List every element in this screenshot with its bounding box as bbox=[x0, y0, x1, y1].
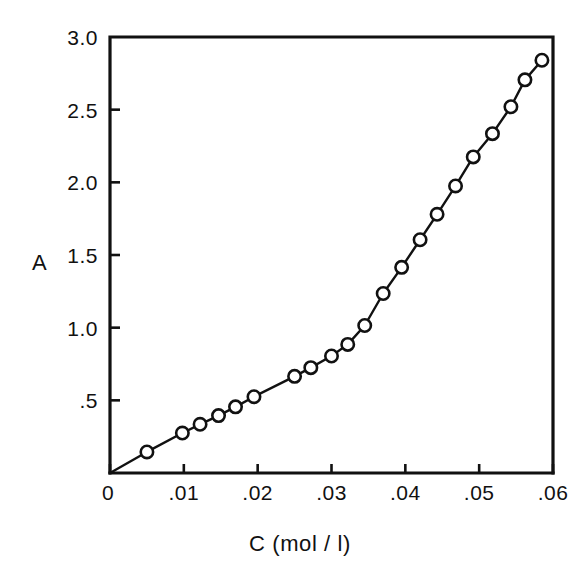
x-tick-label: 0 bbox=[102, 481, 114, 504]
data-point bbox=[505, 101, 517, 113]
x-tick-label: .03 bbox=[316, 481, 347, 504]
data-point bbox=[431, 208, 443, 220]
x-tick-label: .02 bbox=[242, 481, 273, 504]
data-point bbox=[305, 361, 317, 373]
data-curve bbox=[110, 60, 542, 473]
data-point bbox=[449, 180, 461, 192]
data-point bbox=[377, 287, 389, 299]
data-point-markers bbox=[141, 54, 548, 458]
x-axis-title: C (mol / l) bbox=[249, 531, 351, 556]
y-tick-label: 3.0 bbox=[67, 26, 98, 49]
y-tick-label: .5 bbox=[79, 389, 98, 412]
line-chart: 0.01.02.03.04.05.06 0.51.01.52.02.53.0 C… bbox=[0, 0, 580, 572]
data-point bbox=[229, 401, 241, 413]
data-point bbox=[414, 234, 426, 246]
data-point bbox=[141, 446, 153, 458]
y-tick-label: 1.5 bbox=[67, 244, 98, 267]
x-tick-label: .04 bbox=[390, 481, 421, 504]
data-point bbox=[194, 418, 206, 430]
data-point bbox=[467, 151, 479, 163]
figure-container: 0.01.02.03.04.05.06 0.51.01.52.02.53.0 C… bbox=[0, 0, 580, 572]
y-axis-tick-labels: 0.51.01.52.02.53.0 bbox=[67, 26, 98, 485]
data-point bbox=[519, 74, 531, 86]
data-point bbox=[288, 370, 300, 382]
x-tick-label: .05 bbox=[464, 481, 495, 504]
x-axis-tick-labels: 0.01.02.03.04.05.06 bbox=[102, 481, 568, 504]
y-tick-label: 2.5 bbox=[67, 99, 98, 122]
data-point bbox=[342, 338, 354, 350]
x-tick-label: .01 bbox=[168, 481, 199, 504]
data-point bbox=[248, 391, 260, 403]
x-tick-label: .06 bbox=[538, 481, 569, 504]
y-tick-label: 2.0 bbox=[67, 171, 98, 194]
data-point bbox=[359, 319, 371, 331]
plot-frame bbox=[110, 37, 553, 473]
data-point bbox=[536, 54, 548, 66]
y-axis-title: A bbox=[32, 250, 47, 275]
data-point bbox=[176, 427, 188, 439]
data-point bbox=[395, 261, 407, 273]
data-point bbox=[325, 350, 337, 362]
y-tick-label: 1.0 bbox=[67, 317, 98, 340]
data-point bbox=[212, 409, 224, 421]
data-point bbox=[486, 127, 498, 139]
